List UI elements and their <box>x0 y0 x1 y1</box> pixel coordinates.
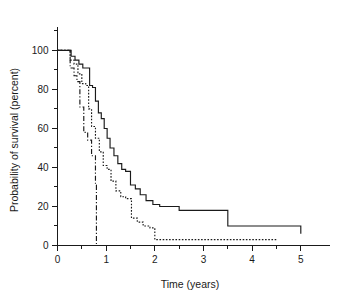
y-tick-label: 40 <box>37 162 49 173</box>
curve-dashdot <box>58 50 97 245</box>
y-tick-label: 100 <box>32 45 49 56</box>
x-axis-title: Time (years) <box>161 278 220 290</box>
x-tick-label: 1 <box>103 254 109 265</box>
curve-dotted <box>58 50 277 239</box>
curve-solid <box>58 50 301 233</box>
y-axis-title: Probability of survival (percent) <box>8 68 20 212</box>
x-axis-ticks <box>58 246 301 252</box>
y-tick-label: 20 <box>37 201 49 212</box>
y-axis-ticks <box>52 31 58 246</box>
x-tick-label: 3 <box>201 254 207 265</box>
x-tick-label: 2 <box>152 254 158 265</box>
y-tick-label: 0 <box>43 240 49 251</box>
y-tick-label: 60 <box>37 123 49 134</box>
x-tick-label: 0 <box>55 254 61 265</box>
x-axis-tick-labels: 012345 <box>55 254 304 265</box>
survival-chart: 012345 020406080100 Time (years) Probabi… <box>0 0 343 299</box>
x-tick-label: 5 <box>298 254 304 265</box>
survival-curves <box>58 50 301 245</box>
km-plot-svg: 012345 020406080100 Time (years) Probabi… <box>0 0 343 299</box>
x-tick-label: 4 <box>249 254 255 265</box>
y-axis-tick-labels: 020406080100 <box>32 45 49 251</box>
plot-axes: 012345 020406080100 <box>32 27 330 265</box>
y-tick-label: 80 <box>37 84 49 95</box>
